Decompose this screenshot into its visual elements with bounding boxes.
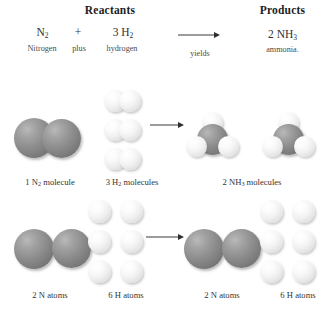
hydrogen-sphere — [294, 136, 315, 157]
left-n-atoms-model — [14, 229, 92, 275]
nitrogen-sphere — [184, 229, 224, 269]
hydrogen-sphere — [88, 200, 111, 223]
reactants-heading: Reactants — [45, 4, 175, 16]
nitrogen-sphere — [52, 229, 91, 268]
hydrogen-sphere — [120, 200, 143, 223]
left-h-atoms-caption: 6 H atoms — [84, 290, 168, 300]
n2-molecule-model — [14, 118, 86, 160]
hydrogen-sphere — [88, 230, 111, 253]
hydrogen-sphere — [120, 230, 143, 253]
nh3-caption-post: molecules — [244, 177, 281, 187]
products-heading: Products — [240, 4, 325, 16]
hydrogen-sphere — [119, 148, 141, 170]
hydrogen-sphere — [292, 230, 315, 253]
reactant-hydrogen-formula: 3 H2 — [92, 26, 154, 40]
nh3-molecules-caption: 2 NH3 molecules — [196, 177, 308, 187]
hydrogen-sphere — [292, 260, 315, 283]
hydrogen-sphere — [218, 136, 239, 157]
product-ammonia-formula: 2 NH3 — [240, 28, 325, 42]
hydrogen-sphere — [119, 119, 141, 141]
nitrogen-symbol: N — [36, 26, 44, 38]
h2-caption-post: molecules — [121, 177, 158, 187]
molecule-reaction-arrow — [150, 120, 190, 130]
ammonia-subscript: 3 — [293, 33, 297, 42]
h2-caption-pre: 3 H — [106, 177, 119, 187]
right-n-atoms-model — [184, 229, 266, 275]
hydrogen-sphere — [292, 200, 315, 223]
nh3-caption-pre: 2 NH — [223, 177, 242, 187]
left-h-atoms-model — [88, 200, 158, 284]
hydrogen-sphere — [120, 260, 143, 283]
plus-symbol: + — [66, 26, 90, 38]
nitrogen-subscript: 2 — [45, 31, 49, 40]
n2-caption-post: molecule — [41, 177, 75, 187]
hydrogen-sphere — [119, 90, 141, 112]
hydrogen-sphere — [260, 200, 283, 223]
h2-molecules-model — [104, 90, 158, 170]
yields-word-label: yields — [176, 49, 224, 58]
n2-molecule-caption: 1 N2 molecule — [6, 177, 94, 187]
left-n-atoms-caption: 2 N atoms — [8, 290, 92, 300]
nitrogen-sphere — [14, 229, 54, 269]
hydrogen-word-label: hydrogen — [93, 44, 151, 53]
nitrogen-word-label: Nitrogen — [16, 44, 68, 53]
nh3-molecule-model — [262, 112, 320, 164]
h2-molecules-caption: 3 H2 molecules — [84, 177, 180, 187]
hydrogen-sphere — [262, 136, 283, 157]
hydrogen-sphere — [186, 136, 207, 157]
right-h-atoms-model — [260, 200, 330, 284]
reactant-nitrogen-formula: N2 — [20, 26, 65, 40]
ammonia-word-label: ammonia. — [240, 45, 325, 54]
right-n-atoms-caption: 2 N atoms — [180, 290, 264, 300]
hydrogen-coefficient: 3 H — [113, 26, 130, 38]
hydrogen-sphere — [260, 260, 283, 283]
diagram-canvas: Reactants Products N2 + 3 H2 2 NH3 Nitro… — [0, 0, 330, 315]
nitrogen-sphere — [42, 119, 81, 158]
right-h-atoms-caption: 6 H atoms — [256, 290, 330, 300]
equation-yields-arrow — [178, 30, 222, 40]
nh3-molecule-model — [186, 112, 244, 164]
hydrogen-sphere — [260, 230, 283, 253]
nitrogen-sphere — [222, 229, 261, 268]
hydrogen-sphere — [88, 260, 111, 283]
ammonia-coefficient: 2 NH — [268, 28, 293, 40]
plus-word-label: plus — [66, 44, 92, 53]
hydrogen-subscript: 2 — [130, 31, 134, 40]
n2-caption-pre: 1 N — [25, 177, 38, 187]
